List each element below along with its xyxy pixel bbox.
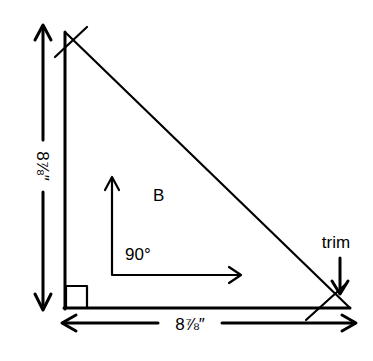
angle-label: 90° — [125, 245, 151, 264]
piece-label: B — [153, 186, 164, 205]
horizontal-dimension-label: 8⅞″ — [175, 315, 205, 334]
triangle-diagram: 8⅞″ B 90° trim 8⅞″ — [0, 0, 373, 361]
grain-direction-arrows — [105, 177, 241, 283]
horizontal-dimension-arrow — [62, 315, 356, 331]
right-angle-marker-icon — [66, 286, 87, 308]
trim-label: trim — [322, 233, 350, 252]
vertical-dimension-label: 8⅞″ — [33, 151, 52, 181]
triangle-hypotenuse — [66, 33, 350, 308]
top-cut-mark — [55, 27, 87, 57]
trim-arrow — [332, 258, 348, 294]
